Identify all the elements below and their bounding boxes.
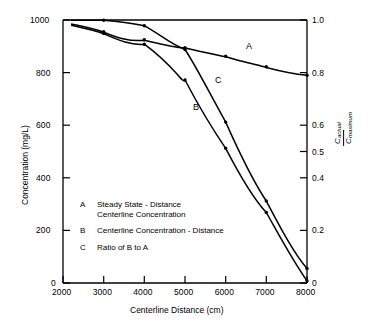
x-axis-title: Centerline Distance (cm) (130, 305, 224, 315)
left-axis-ticks (63, 20, 70, 283)
ytick-label-600: 600 (36, 120, 50, 130)
legend-text-A-line1: Steady State - Distance (97, 200, 181, 209)
xtick-label-7000: 7000 (255, 287, 274, 297)
y2tick-label-0p4: 0.4 (312, 173, 324, 183)
legend-text-B-line1: Centerline Concentration - Distance (97, 226, 224, 235)
series-line-A (71, 24, 307, 75)
right-axis-ticks (300, 20, 307, 283)
legend-text-C-line1: Ratio of B to A (97, 243, 148, 252)
y2-title-denominator: Cmaximum (346, 130, 354, 146)
legend-key-B: B (80, 226, 85, 235)
x-axis-ticks (63, 276, 307, 283)
legend-text-A-line2: Centerline Concentration (97, 210, 186, 219)
y2tick-label-0p8: 0.8 (312, 68, 324, 78)
y2-axis-title: Cactual Cmaximum (334, 130, 354, 146)
y2tick-label-1p0: 1.0 (312, 15, 324, 25)
ytick-label-1000: 1000 (30, 15, 49, 25)
y2tick-label-0p2: 0.2 (312, 225, 324, 235)
y2tick-label-0p6: 0.6 (312, 120, 324, 130)
xtick-label-2000: 2000 (52, 287, 71, 297)
legend-key-C: C (80, 243, 86, 252)
xtick-label-4000: 4000 (133, 287, 152, 297)
curve-label-B: B (193, 102, 199, 112)
y2tick-label-0p5: 0.5 (312, 147, 324, 157)
ytick-label-200: 200 (36, 225, 50, 235)
ytick-label-400: 400 (36, 173, 50, 183)
xtick-label-8000: 8000 (296, 287, 315, 297)
y2-title-numerator: Cactual (334, 130, 342, 146)
xtick-label-5000: 5000 (174, 287, 193, 297)
y-axis-title: Concentration (mg/L) (20, 125, 30, 205)
xtick-label-3000: 3000 (93, 287, 112, 297)
curve-label-C: C (215, 75, 222, 85)
ytick-label-800: 800 (36, 68, 50, 78)
legend-key-A: A (80, 200, 85, 209)
xtick-label-6000: 6000 (215, 287, 234, 297)
chart-figure: 1000 800 600 400 200 0 1.0 0.8 0.6 0.5 0… (0, 0, 376, 326)
chart-canvas (0, 0, 376, 326)
curve-label-A: A (246, 41, 252, 51)
